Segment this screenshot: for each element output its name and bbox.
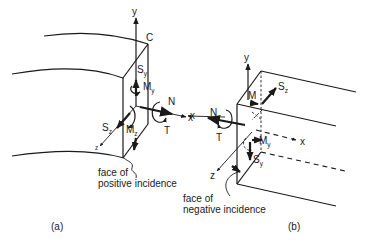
moment-mz-label: M (248, 90, 256, 101)
panel-b: y x x z N T M Sz My Sy face (183, 52, 356, 232)
moment-mz-label: Mz (126, 124, 138, 137)
shear-sz-arrow (262, 88, 276, 104)
beam-middle-edge (12, 69, 123, 78)
z-axis-label: z (95, 144, 98, 151)
annotation-line1: face of (183, 193, 213, 204)
y-axis-label: y (132, 6, 137, 17)
beam-internal-forces-figure: y C x z N T Sy My Sz Mz face of positive… (0, 0, 369, 247)
moment-mz-arrow (250, 103, 258, 104)
annotation-line2: positive incidence (98, 178, 177, 189)
panel-caption-b: (b) (288, 221, 300, 232)
panel-a: y C x z N T Sy My Sz Mz face of positive… (12, 6, 193, 232)
annotation-line2: negative incidence (183, 204, 266, 215)
annotation-line1: face of (98, 167, 128, 178)
x-axis-label: x (190, 110, 195, 121)
torque-t-label: T (164, 125, 170, 136)
force-n-label: N (210, 107, 217, 118)
moment-my-label: My (143, 81, 155, 95)
shear-sz-label: Sz (102, 122, 112, 135)
panel-caption-a: (a) (51, 221, 63, 232)
torque-t-label: T (216, 132, 222, 143)
beam-hidden-edge (261, 152, 345, 171)
moment-my-label: My (259, 135, 271, 149)
force-n-arrow (208, 118, 245, 125)
force-n-label: N (168, 96, 175, 107)
beam-bottom-edge (12, 151, 124, 158)
corner-label: C (146, 32, 153, 43)
torque-t-icon (218, 110, 232, 128)
shear-sz-label: Sz (278, 81, 288, 94)
shear-sy-label: Sy (253, 154, 264, 168)
leader-line (226, 172, 238, 196)
z-axis-label: z (210, 170, 215, 181)
beam-middle-edge (237, 104, 336, 126)
force-n-arrow (140, 107, 172, 114)
beam-top-edge (44, 33, 148, 44)
z-axis (217, 132, 252, 171)
y-axis-label: y (244, 52, 249, 63)
shear-sy-label: Sy (137, 64, 148, 78)
x-axis-label-2: x (300, 136, 305, 147)
beam-bottom-edge (237, 184, 336, 206)
